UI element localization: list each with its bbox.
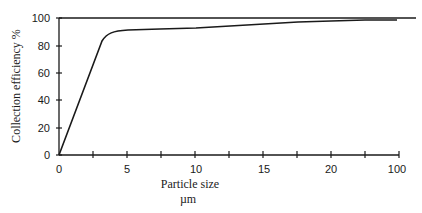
x-tick-label: 5 — [124, 163, 130, 175]
y-tick-label: 60 — [38, 67, 50, 79]
efficiency-curve — [59, 20, 397, 155]
y-tick-label: 80 — [38, 40, 50, 52]
y-tick-label: 20 — [38, 122, 50, 134]
y-tick-label: 40 — [38, 94, 50, 106]
x-tick-label: 20 — [325, 163, 337, 175]
x-tick-label: 15 — [258, 163, 270, 175]
y-tick-label: 100 — [32, 12, 50, 24]
x-tick-label: 0 — [56, 163, 62, 175]
y-tick-label: 0 — [44, 149, 50, 161]
x-tick-label: 100 — [388, 163, 406, 175]
collection-efficiency-chart: 0 20 40 60 80 100 0 5 10 15 20 100 Parti… — [0, 0, 422, 213]
x-axis-unit: µm — [180, 192, 197, 206]
x-tick-label: 10 — [190, 163, 202, 175]
y-axis-title: Collection efficiency % — [9, 29, 23, 143]
x-axis-title: Particle size — [161, 177, 219, 191]
